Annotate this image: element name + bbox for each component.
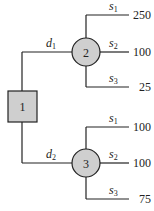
payoff-node2-s3: 25 [139,80,151,94]
state-label-node3-s2: s2 [109,147,118,162]
payoff-node2-s2: 100 [133,45,151,59]
decision-label-d2: d2 [46,147,56,162]
chance-node-2-label: 2 [83,46,89,60]
decision-node-label: 1 [20,100,26,114]
state-label-node3-s1: s1 [109,111,118,126]
state-label-node2-s2: s2 [109,36,118,51]
payoff-node2-s1: 250 [133,8,151,22]
state-label-node2-s3: s3 [109,71,118,86]
decision-tree-diagram: 1 2 3 d1 d2 s1 s2 s3 s1 s2 s3 250 100 25… [0,0,154,211]
state-label-node2-s1: s1 [109,0,118,14]
decision-label-d1: d1 [46,36,56,51]
payoff-node3-s2: 100 [133,156,151,170]
state-label-node3-s3: s3 [109,183,118,198]
payoff-node3-s1: 100 [133,120,151,134]
chance-node-3-label: 3 [83,157,89,171]
payoff-node3-s3: 75 [139,192,151,206]
